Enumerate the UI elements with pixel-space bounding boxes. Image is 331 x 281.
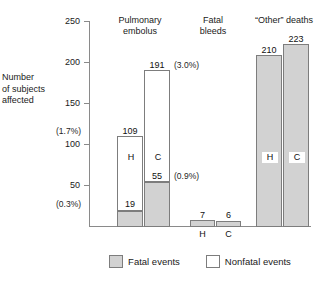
bar-chip-pe-h-category: H [123,152,139,163]
bar-value-pe-c-fatal: 55 [144,171,170,181]
axis-category-fb-c: C [216,229,241,239]
bar-od-h-fatal[interactable] [256,55,282,227]
y-tick-mark-250 [84,21,89,22]
axis-category-fb-h: H [190,229,215,239]
y-axis-title: Number of subjects affected [2,72,72,107]
bar-value-od-c-total: 223 [283,34,309,44]
group-title-fatal-bleeds: Fatal bleeds [184,15,242,37]
bar-chip-od-h-category: H [262,152,278,163]
pct-label-pe-h-fatal: (0.3%) [56,199,81,209]
y-tick-label-50: 50 [46,180,80,191]
group-title-other-deaths: “Other” deaths [240,15,328,26]
y-tick-mark-100 [84,144,89,145]
bar-value-od-h-total: 210 [256,45,282,55]
group-title-fb-line-1: Fatal [184,15,242,26]
bar-fb-h-fatal[interactable] [190,220,215,227]
bar-chip-od-c-category: C [289,152,305,163]
y-tick-mark-150 [84,103,89,104]
pct-label-pe-h-total: (1.7%) [56,126,81,136]
bar-chip-pe-c-category: C [150,152,166,163]
group-title-fb-line-2: bleeds [184,26,242,37]
bar-value-pe-c-total: 191 [144,60,170,70]
group-title-pe-line-1: Pulmonary [100,15,180,26]
bar-pe-h-fatal[interactable] [117,211,143,227]
group-title-od-line-1: “Other” deaths [240,15,328,26]
bar-fb-c-fatal[interactable] [216,221,241,227]
y-tick-mark-50 [84,185,89,186]
y-axis-line [89,21,90,227]
pct-label-pe-c-fatal: (0.9%) [174,171,199,181]
bar-value-fb-c-total: 6 [216,210,241,220]
y-tick-label-100: 100 [46,139,80,150]
y-tick-label-200: 200 [46,57,80,68]
legend-label-fatal-events: Fatal events [128,256,180,267]
group-title-pe-line-2: embolus [100,26,180,37]
bar-value-pe-h-total: 109 [117,126,143,136]
legend-swatch-fatal-icon [109,255,123,268]
legend-label-nonfatal-events: Nonfatal events [225,256,291,267]
y-tick-label-250: 250 [46,16,80,27]
y-axis-title-line-1: Number [2,72,72,84]
y-axis-title-line-2: of subjects [2,84,72,96]
bar-chart-figure: 250 200 150 100 50 Number of subjects af… [0,0,331,281]
legend-item-nonfatal-events[interactable]: Nonfatal events [206,255,291,268]
bar-pe-c-fatal[interactable] [144,182,170,227]
legend-item-fatal-events[interactable]: Fatal events [109,255,180,268]
legend-swatch-nonfatal-icon [206,255,220,268]
group-title-pulmonary-embolus: Pulmonary embolus [100,15,180,37]
y-axis-title-line-3: affected [2,95,72,107]
bar-od-c-fatal[interactable] [283,44,309,227]
bar-value-pe-h-fatal: 19 [117,199,143,209]
y-tick-mark-200 [84,62,89,63]
bar-value-fb-h-total: 7 [190,210,215,220]
chart-legend: Fatal events Nonfatal events [89,251,311,271]
bar-pe-c-nonfatal[interactable] [144,70,170,182]
pct-label-pe-c-total: (3.0%) [174,60,199,70]
